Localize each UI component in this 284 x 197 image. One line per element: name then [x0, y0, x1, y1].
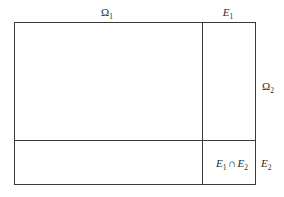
label-omega-1-subscript: 1 — [109, 12, 113, 21]
set-diagram-figure: Ω1 E1 Ω2 E1∩E2 E2 — [0, 0, 284, 197]
intersection-left-subscript: 1 — [223, 163, 227, 172]
label-omega-2-base: Ω — [262, 80, 270, 92]
label-omega-1-base: Ω — [101, 6, 109, 18]
intersection-operator-icon: ∩ — [227, 157, 238, 169]
label-e-2-base: E — [261, 157, 268, 169]
label-e-1-subscript: 1 — [229, 12, 233, 21]
label-e-1: E1 — [223, 7, 233, 18]
vertical-divider-line — [202, 22, 203, 185]
label-omega-1: Ω1 — [101, 7, 113, 18]
horizontal-divider-line — [14, 140, 256, 141]
label-e-2-subscript: 2 — [268, 163, 272, 172]
label-e-1-base: E — [223, 6, 230, 18]
label-e1-intersect-e2: E1∩E2 — [216, 158, 248, 169]
label-omega-2-subscript: 2 — [270, 86, 274, 95]
intersection-right-subscript: 2 — [244, 163, 248, 172]
intersection-left-base: E — [216, 157, 223, 169]
label-omega-2: Ω2 — [262, 81, 274, 92]
label-e-2: E2 — [261, 158, 271, 169]
